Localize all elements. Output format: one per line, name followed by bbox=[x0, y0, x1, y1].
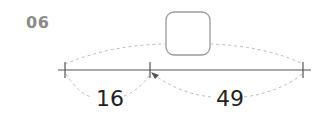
lower-arc-16-right bbox=[124, 74, 150, 96]
segment-label-16: 16 bbox=[96, 88, 124, 110]
segment-label-49: 49 bbox=[216, 88, 244, 110]
number-line-diagram bbox=[0, 0, 327, 115]
lower-arc-49-right bbox=[244, 74, 302, 97]
upper-arc-right bbox=[210, 44, 303, 64]
answer-box[interactable] bbox=[166, 12, 210, 55]
lower-arc-16-left bbox=[66, 74, 92, 97]
upper-arc-left bbox=[65, 44, 166, 64]
lower-arc-49-left bbox=[153, 74, 212, 97]
